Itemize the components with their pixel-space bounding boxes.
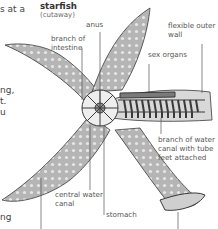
body-text-fragment-4: u [0, 107, 6, 118]
label-sex-organs: sex organs [148, 51, 187, 60]
body-text-fragment-3: t. [0, 96, 6, 107]
diagram-subtitle: (cutaway) [40, 11, 75, 19]
starfish-diagram: starfish (cutaway) anus branch of intest… [0, 0, 218, 229]
starfish-illustration [0, 0, 218, 229]
label-central-water-canal-line2: canal [55, 200, 74, 209]
body-text-fragment-5: ng [0, 212, 11, 223]
body-text-fragment-2: ng, [0, 85, 14, 96]
body-text-fragment-1: s at a [0, 4, 25, 15]
label-stomach: stomach [106, 211, 137, 220]
label-flexible-outer-wall-line2: wall [168, 31, 182, 40]
diagram-title: starfish [40, 1, 77, 11]
label-anus: anus [86, 21, 103, 30]
label-branch-of-intestine-line2: intestine [51, 44, 82, 53]
label-branch-water-canal-line3: feet attached [158, 154, 206, 163]
